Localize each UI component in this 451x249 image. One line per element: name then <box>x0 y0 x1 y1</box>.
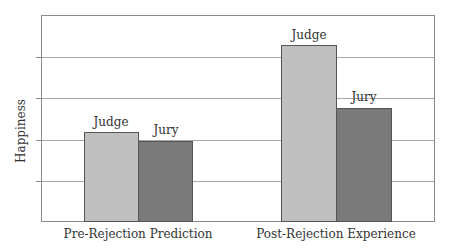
x-category-label-post: Post-Rejection Experience <box>236 227 436 241</box>
bar-label-pre-jury: Jury <box>136 123 196 137</box>
bar-label-pre-judge: Judge <box>81 115 141 129</box>
bar-label-post-judge: Judge <box>279 28 339 42</box>
y-axis-label: Happiness <box>14 99 28 163</box>
bar-post-judge <box>281 45 337 222</box>
bar-post-jury <box>336 108 392 222</box>
bar-pre-judge <box>84 132 139 222</box>
bar-chart: Judge Jury Judge Jury Pre-Rejection Pred… <box>0 0 451 249</box>
bar-label-post-jury: Jury <box>334 90 394 104</box>
bar-pre-jury <box>138 141 193 222</box>
x-category-label-pre: Pre-Rejection Prediction <box>38 227 238 241</box>
